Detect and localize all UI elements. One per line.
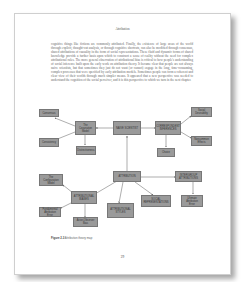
- box-actor-observer-bias: Actor-Observer Bias: [73, 217, 98, 227]
- box-naive-scientist: NAIVE SCIENTIST: [113, 121, 141, 135]
- box-covariation-model: The Covariation Model: [75, 121, 96, 135]
- box-configuration-model: The Configuration Model: [39, 174, 63, 186]
- box-choice: Choice: [157, 148, 175, 157]
- box-attributional-biases: ATTRIBUTIONAL BIASES: [71, 191, 97, 204]
- box-correspondent-inferences: CORRESPONDENT INFERENCES: [155, 121, 181, 135]
- box-fundamental-attribution-error: Fundamental Attribution Error: [39, 207, 61, 217]
- box-intergroup-attributions: INTERGROUP ATTRIBUTIONS: [175, 171, 202, 182]
- box-consistency: Consistency: [39, 138, 59, 147]
- box-social-representations: SOCIAL REPRESENTATIONS: [141, 195, 171, 207]
- page-number: 29: [15, 255, 230, 259]
- figure-caption-text: Attribution theory map: [65, 236, 92, 240]
- box-noncommon-effects: Noncommon Effects: [191, 136, 212, 146]
- document-page: Attribution cognitive things like fictio…: [14, 13, 231, 275]
- box-attributional-styles: ATTRIBUTIONAL STYLES: [107, 203, 134, 218]
- box-attribution: ATTRIBUTION: [113, 171, 141, 182]
- box-social-desirability: Social Desirability: [191, 107, 212, 117]
- box-ultimate-attribution-error: Ultimate Attribution Error: [181, 195, 203, 207]
- figure-caption: Figure 2.3 Attribution theory map: [51, 236, 92, 240]
- box-distinctiveness: Distinctiveness: [76, 146, 96, 155]
- box-consensus: Consensus: [39, 109, 59, 117]
- figure-label: Figure 2.3: [51, 236, 64, 240]
